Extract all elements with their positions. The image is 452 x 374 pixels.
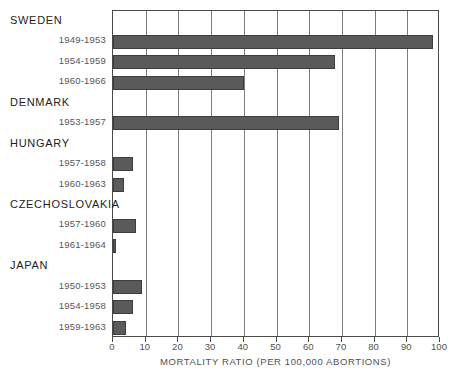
x-tick-label: 80 — [368, 341, 379, 352]
period-label: 1961-1964 — [59, 235, 106, 255]
x-tick-label: 40 — [238, 341, 249, 352]
bar — [113, 35, 433, 49]
bar — [113, 55, 335, 69]
bar — [113, 219, 136, 233]
period-label: 1957-1960 — [59, 214, 106, 234]
period-label: 1954-1958 — [59, 296, 106, 316]
x-tick-label: 50 — [270, 341, 281, 352]
bar — [113, 239, 116, 253]
period-label: 1950-1953 — [59, 276, 106, 296]
plot-area — [112, 10, 439, 337]
gridline — [342, 11, 343, 336]
country-label: DENMARK — [10, 92, 70, 112]
period-label: 1960-1963 — [59, 174, 106, 194]
x-tick-label: 20 — [172, 341, 183, 352]
bar — [113, 157, 133, 171]
mortality-ratio-bar-chart: SWEDEN1949-19531954-19591960-1966DENMARK… — [0, 0, 452, 374]
x-tick-label: 0 — [109, 341, 114, 352]
x-tick-label: 10 — [139, 341, 150, 352]
bar — [113, 300, 133, 314]
period-label: 1960-1966 — [59, 71, 106, 91]
bar — [113, 76, 244, 90]
x-axis-title: MORTALITY RATIO (PER 100,000 ABORTIONS) — [112, 356, 439, 367]
country-label: JAPAN — [10, 255, 48, 275]
bar — [113, 116, 339, 130]
country-label: CZECHOSLOVAKIA — [10, 194, 120, 214]
bar — [113, 178, 124, 192]
x-tick-label: 70 — [336, 341, 347, 352]
period-label: 1957-1958 — [59, 153, 106, 173]
period-label: 1949-1953 — [59, 30, 106, 50]
period-label: 1959-1963 — [59, 317, 106, 337]
gridline — [375, 11, 376, 336]
country-label: SWEDEN — [10, 10, 62, 30]
x-tick-label: 60 — [303, 341, 314, 352]
period-label: 1954-1959 — [59, 51, 106, 71]
bar — [113, 321, 126, 335]
x-tick-label: 100 — [431, 341, 447, 352]
gridline — [407, 11, 408, 336]
bar — [113, 280, 142, 294]
x-tick-label: 30 — [205, 341, 216, 352]
country-label: HUNGARY — [10, 133, 70, 153]
x-tick-label: 90 — [401, 341, 412, 352]
period-label: 1953-1957 — [59, 112, 106, 132]
